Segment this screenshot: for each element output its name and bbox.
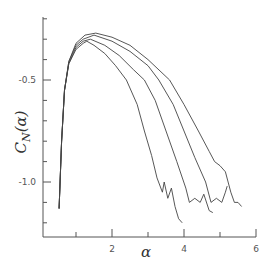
series-line-curve-3 — [59, 35, 227, 208]
chart: 246-0.5-1.0 α CN(α) — [0, 0, 269, 275]
data-series — [59, 33, 242, 223]
y-tick-label: -0.5 — [18, 75, 36, 85]
y-axis-title-sub: N — [20, 132, 33, 143]
series-line-curve-2 — [59, 39, 213, 212]
x-axis-title: α — [141, 243, 151, 261]
y-axis-title-arg: (α) — [12, 110, 30, 132]
x-tick-label: 6 — [253, 244, 259, 254]
x-tick-label: 4 — [181, 244, 187, 254]
x-tick-label: 2 — [109, 244, 115, 254]
y-tick-label: -1.0 — [18, 177, 36, 187]
series-line-curve-4 — [59, 33, 242, 208]
tick-labels: 246-0.5-1.0 — [18, 75, 259, 254]
y-axis-title-main: C — [12, 141, 30, 153]
series-line-curve-1 — [59, 41, 182, 223]
svg-text:CN(α): CN(α) — [12, 110, 33, 153]
y-axis-title: CN(α) — [12, 110, 33, 153]
